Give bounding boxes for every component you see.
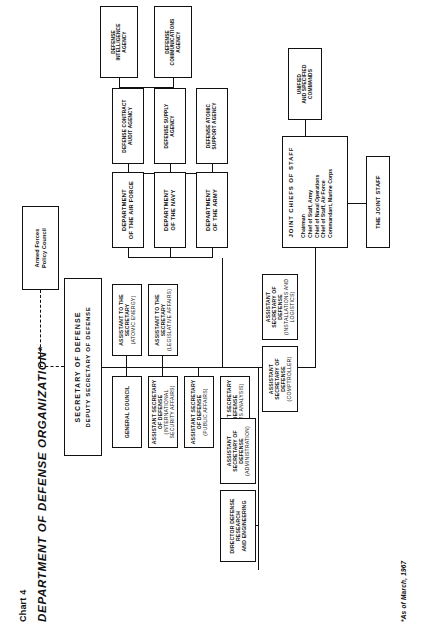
node-line1: THE JOINT STAFF	[375, 175, 382, 229]
node-line2: OF THE NAVY	[170, 189, 177, 230]
node-line2: (INSTALLATIONS AND LOGISTICS)	[283, 277, 295, 337]
page-title: DEPARTMENT OF DEFENSE ORGANIZATION*	[36, 346, 48, 622]
node-line1: GENERAL COUNCIL	[124, 386, 130, 438]
node-department-army[interactable]: DEPARTMENT OF THE ARMY	[196, 172, 228, 248]
node-defense-contract-audit-agency[interactable]: DEFENSE CONTRACT AUDIT AGENCY	[112, 88, 144, 164]
node-line1: DEPARTMENT	[163, 189, 170, 231]
node-department-air-force[interactable]: DEPARTMENT OF THE AIR FORCE	[112, 172, 144, 248]
node-line1: ASSISTANT SECRETARY OF DEFENSE	[226, 421, 244, 481]
rail-lower-staff	[258, 367, 259, 570]
node-line1: ASSISTANT SECRETARY OF DEFENSE	[268, 349, 286, 409]
node-asd-installations-logistics[interactable]: ASSISTANT SECRETARY OF DEFENSE (INSTALLA…	[262, 274, 298, 340]
node-department-navy[interactable]: DEPARTMENT OF THE NAVY	[154, 172, 186, 248]
node-defense-intelligence-agency[interactable]: DEFENSE INTELLIGENCE AGENCY	[100, 6, 138, 78]
connector-army	[212, 248, 213, 258]
node-line2: Policy Council	[41, 228, 48, 268]
node-line2: (COMPTROLLER)	[286, 357, 292, 402]
node-line2: OF THE ARMY	[212, 189, 219, 231]
node-line3: AGENCY	[122, 31, 128, 52]
node-assistant-atomic-energy[interactable]: ASSISTANT TO THE SECRETARY (ATOMIC ENERG…	[112, 284, 142, 356]
connector-dia	[119, 78, 120, 88]
node-line1: ASSISTANT SECRETARY OF DEFENSE	[151, 379, 163, 445]
node-the-joint-staff[interactable]: THE JOINT STAFF	[366, 156, 390, 248]
node-asd-comptroller[interactable]: ASSISTANT SECRETARY OF DEFENSE (COMPTROL…	[262, 346, 298, 412]
jcs-member: Chief of Staff, Air Force	[320, 169, 327, 238]
node-defense-atomic-support-agency[interactable]: DEFENSE ATOMIC SUPPORT AGENCY	[196, 88, 228, 164]
connector-asd-isa	[162, 367, 163, 376]
node-general-council[interactable]: GENERAL COUNCIL	[112, 376, 142, 448]
chart-number: Chart 4	[18, 590, 28, 622]
node-line2: (ATOMIC ENERGY)	[130, 296, 136, 345]
node-line3: AGENCY	[176, 31, 182, 52]
node-asd-administration[interactable]: ASSISTANT SECRETARY OF DEFENSE (ADMINIST…	[220, 418, 256, 484]
connector-unified-commands	[305, 120, 306, 136]
node-line2: (INTERNATIONAL SECURITY AFFAIRS)	[163, 379, 175, 445]
node-asd-international-security-affairs[interactable]: ASSISTANT SECRETARY OF DEFENSE (INTERNAT…	[148, 376, 178, 448]
node-line2: (LEGISLATIVE AFFAIRS)	[166, 289, 172, 351]
connector-air-force	[128, 248, 129, 258]
node-line1: ASSISTANT SECRETARY OF DEFENSE	[265, 277, 283, 337]
jcs-member: Chief of Staff, Army	[307, 169, 314, 238]
node-line2: AND ENGINEERING	[241, 500, 247, 551]
rail-departments-feed	[222, 258, 223, 368]
node-joint-chiefs-of-staff[interactable]: JOINT CHIEFS OF STAFF ChairmanChief of S…	[282, 136, 348, 248]
node-line3: COMMANDS	[308, 69, 314, 99]
connector-assistant-atomic-energy	[126, 356, 127, 368]
node-line1: JOINT CHIEFS OF STAFF	[288, 147, 295, 238]
jcs-member: Chairman	[300, 169, 307, 238]
node-line1: Armed Forces	[34, 229, 41, 268]
node-line1: ASSISTANT SECRETARY OF DEFENSE	[190, 379, 202, 445]
node-defense-communications-agency[interactable]: DEFENSE COMMUNICATIONS AGENCY	[154, 6, 192, 78]
node-line2: AUDIT AGENCY	[128, 107, 134, 145]
node-line2: DEPUTY SECRETARY OF DEFENSE	[85, 306, 92, 427]
node-line1: ASSISTANT TO THE SECRETARY	[118, 287, 130, 353]
node-secretary-of-defense[interactable]: SECRETARY OF DEFENSE DEPUTY SECRETARY OF…	[64, 278, 102, 456]
node-line2: AGENCY	[170, 115, 176, 136]
node-line1: DEPARTMENT	[205, 189, 212, 231]
node-line2: (ADMINISTRATION)	[244, 426, 250, 476]
node-line1: DEPARTMENT	[121, 189, 128, 231]
connector-asd-public-affairs	[198, 367, 199, 376]
node-line1: SECRETARY OF DEFENSE	[74, 312, 82, 423]
connector-dca	[173, 78, 174, 88]
node-line1: ASSISTANT TO THE SECRETARY	[154, 287, 166, 353]
connector-navy	[170, 248, 171, 258]
node-asd-public-affairs[interactable]: ASSISTANT SECRETARY OF DEFENSE (PUBLIC A…	[184, 376, 214, 448]
dashed-connector-vertical	[40, 366, 64, 367]
connector-joint-staff	[348, 203, 366, 204]
connector-jcs	[315, 248, 316, 368]
node-director-defense-research[interactable]: DIRECTOR DEFENSE RESEARCH AND ENGINEERIN…	[220, 490, 256, 562]
node-armed-forces-policy-council[interactable]: Armed Forces Policy Council	[22, 206, 59, 290]
node-line2: (PUBLIC AFFAIRS)	[202, 388, 208, 435]
connector-general-council	[126, 367, 127, 376]
node-line2: OF THE AIR FORCE	[128, 181, 135, 239]
node-line1: DIRECTOR DEFENSE RESEARCH	[229, 493, 241, 559]
node-unified-specified-commands[interactable]: UNIFIED AND SPECIFIED COMMANDS	[288, 48, 322, 120]
connector-assistant-legislative-affairs	[162, 356, 163, 368]
jcs-member: Chief of Naval Operations	[314, 169, 321, 238]
jcs-members-list: ChairmanChief of Staff, ArmyChief of Nav…	[300, 169, 334, 245]
node-defense-supply-agency[interactable]: DEFENSE SUPPLY AGENCY	[154, 88, 186, 164]
dashed-connector-horizontal	[40, 290, 41, 367]
jcs-member: Commandant, Marine Corps	[327, 169, 334, 238]
node-assistant-legislative-affairs[interactable]: ASSISTANT TO THE SECRETARY (LEGISLATIVE …	[148, 284, 178, 356]
node-line2: SUPPORT AGENCY	[212, 103, 218, 150]
footnote-as-of-date: *As of March, 1967	[400, 561, 407, 622]
org-chart-canvas: Chart 4 DEPARTMENT OF DEFENSE ORGANIZATI…	[0, 0, 433, 644]
connector-ddre	[256, 525, 259, 526]
